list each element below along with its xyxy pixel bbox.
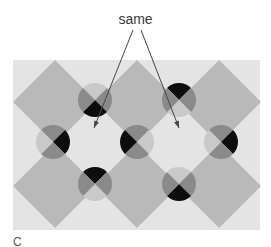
disc-bottom-right <box>162 167 196 201</box>
panel-label: C <box>13 235 22 247</box>
disc-top-left <box>78 83 112 117</box>
disc-bottom-left <box>78 167 112 201</box>
annotation-same: same <box>0 11 271 27</box>
disc-middle-right <box>204 125 238 159</box>
illusion-figure <box>0 0 271 247</box>
disc-middle-center <box>120 125 154 159</box>
disc-top-right <box>162 83 196 117</box>
disc-middle-left <box>36 125 70 159</box>
